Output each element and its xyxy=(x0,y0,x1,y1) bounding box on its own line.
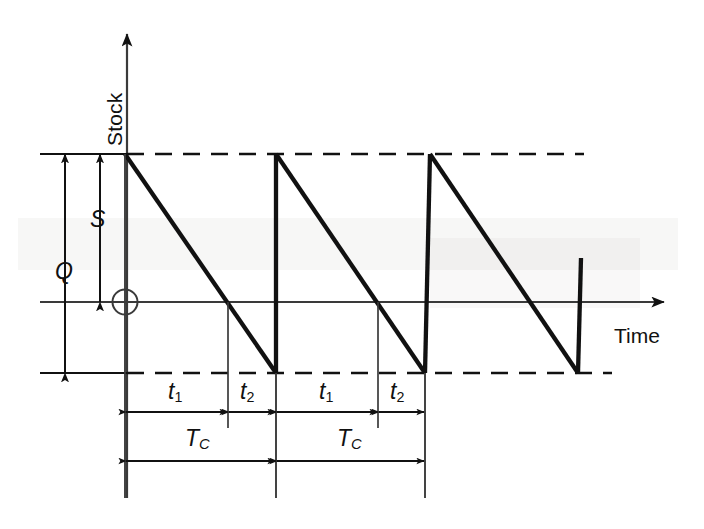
tc-label-2-sub: C xyxy=(351,436,362,452)
tc-label-2: TC xyxy=(337,425,362,452)
tc-label-1-base: T xyxy=(185,425,199,451)
t1-tick-guide-lines xyxy=(228,302,378,428)
y-axis-label: Stock xyxy=(103,92,127,146)
tc-label-1: TC xyxy=(185,425,210,452)
t2-label-2-sub: 2 xyxy=(396,389,404,405)
t2-label-1: t2 xyxy=(240,378,254,405)
t1-label-1-sub: 1 xyxy=(174,389,182,405)
q-label: Q xyxy=(55,258,73,285)
stock-profile-line xyxy=(125,154,581,373)
x-axis-label: Time xyxy=(614,324,660,348)
figure-canvas: Stock Time Q S t1 t2 t1 t2 TC TC xyxy=(0,0,704,529)
t2-label-2: t2 xyxy=(390,378,404,405)
t1-label-2: t1 xyxy=(319,378,333,405)
s-label: S xyxy=(90,206,105,233)
tc-label-2-base: T xyxy=(337,425,351,451)
t2-label-1-sub: 2 xyxy=(246,389,254,405)
t1-label-1: t1 xyxy=(168,378,182,405)
tc-label-1-sub: C xyxy=(199,436,210,452)
t1-label-2-sub: 1 xyxy=(325,389,333,405)
